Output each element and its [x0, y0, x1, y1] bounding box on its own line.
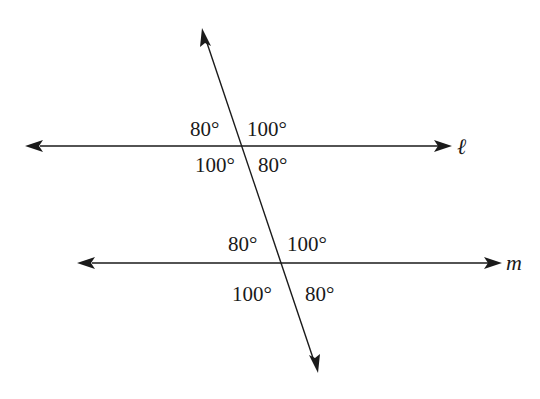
- arrow-up-icon: [200, 28, 211, 47]
- angle-m-bottom-left: 100°: [232, 282, 272, 306]
- angle-l-top-right: 100°: [247, 117, 287, 141]
- angle-m-top-right: 100°: [287, 232, 327, 256]
- angle-l-top-left: 80°: [190, 117, 219, 141]
- parallel-lines-diagram: ℓ m 80° 100° 100° 80° 80° 100° 100° 80°: [0, 0, 540, 399]
- angle-l-bottom-right: 80°: [258, 153, 287, 177]
- arrow-down-icon: [309, 354, 320, 373]
- line-l: [25, 140, 452, 152]
- line-l-label: ℓ: [457, 134, 467, 159]
- angle-l-bottom-left: 100°: [195, 153, 235, 177]
- angle-m-bottom-right: 80°: [305, 282, 334, 306]
- transversal-line: [200, 28, 320, 373]
- line-m-label: m: [506, 250, 522, 275]
- angle-m-top-left: 80°: [228, 232, 257, 256]
- line-m: [77, 257, 502, 269]
